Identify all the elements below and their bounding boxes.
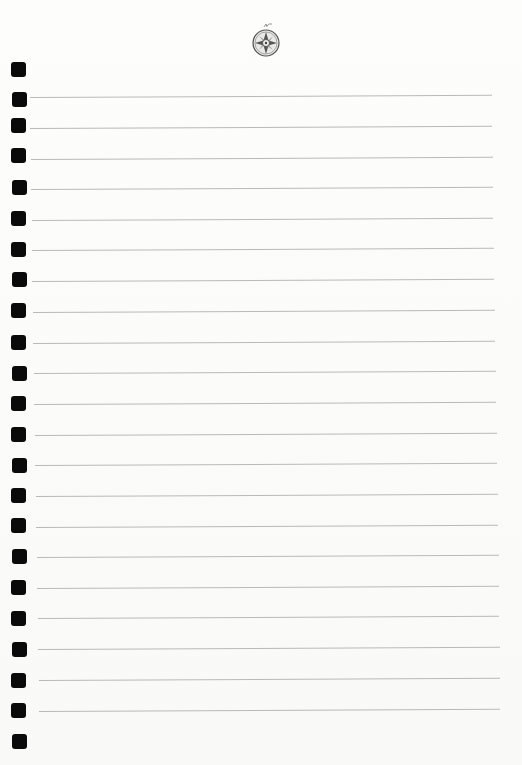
binder-hole (11, 427, 26, 442)
binder-hole (11, 611, 26, 626)
binder-hole (11, 335, 26, 350)
ruled-line (35, 433, 497, 436)
ruled-line (39, 709, 500, 712)
binder-hole (11, 303, 26, 318)
binder-hole (11, 211, 26, 226)
ruled-line (35, 463, 497, 466)
binder-hole (12, 549, 27, 564)
ruled-line (33, 341, 495, 344)
ruled-line (30, 126, 492, 129)
binder-hole (11, 518, 26, 533)
binder-hole (11, 488, 26, 503)
ruled-line (34, 402, 496, 405)
binder-hole (11, 673, 26, 688)
binder-hole (11, 242, 26, 257)
ruled-line (38, 647, 500, 650)
binder-hole (11, 580, 26, 595)
ruled-line (30, 95, 492, 98)
binder-hole (12, 180, 27, 195)
binder-hole (12, 366, 27, 381)
ruled-line (32, 279, 494, 282)
binder-hole (11, 703, 26, 718)
binder-hole (12, 272, 27, 287)
ruled-line (36, 525, 498, 528)
binder-hole (11, 148, 26, 163)
ruled-line (32, 248, 494, 251)
binder-hole (11, 62, 26, 77)
ruled-line (33, 310, 495, 313)
ruled-line (32, 218, 493, 221)
ruled-line (38, 616, 499, 619)
ruled-line (31, 157, 493, 160)
binder-hole (12, 734, 27, 749)
compass-rose-icon (248, 22, 284, 58)
ruled-line (31, 187, 493, 190)
ruled-line (34, 371, 496, 374)
ruled-line (37, 555, 499, 558)
binder-hole (12, 92, 27, 107)
ruled-line (39, 678, 500, 681)
binder-hole (12, 458, 27, 473)
ruled-line (37, 586, 499, 589)
ruled-line (36, 494, 498, 497)
binder-hole (11, 118, 26, 133)
notebook-page (0, 0, 522, 765)
binder-hole (12, 642, 27, 657)
binder-hole (11, 396, 26, 411)
